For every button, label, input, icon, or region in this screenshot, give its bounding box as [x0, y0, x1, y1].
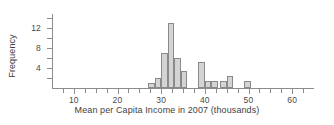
x-tick-minor	[63, 89, 64, 93]
y-axis-line	[52, 14, 53, 89]
y-tick-minor	[47, 38, 52, 39]
x-tick-minor	[227, 89, 228, 93]
x-tick-major	[292, 89, 293, 94]
y-tick-major	[47, 28, 52, 29]
x-tick-minor	[281, 89, 282, 93]
x-tick-minor	[139, 89, 140, 93]
x-tick-label: 50	[244, 95, 254, 105]
x-tick-minor	[172, 89, 173, 93]
x-tick-minor	[150, 89, 151, 93]
x-tick-minor	[303, 89, 304, 93]
x-tick-minor	[259, 89, 260, 93]
histogram-bar	[211, 81, 218, 89]
x-tick-major	[249, 89, 250, 94]
x-tick-minor	[194, 89, 195, 93]
x-tick-major	[74, 89, 75, 94]
x-tick-label: 60	[287, 95, 297, 105]
x-tick-label: 30	[156, 95, 166, 105]
y-tick-major	[47, 48, 52, 49]
x-tick-minor	[216, 89, 217, 93]
x-tick-minor	[107, 89, 108, 93]
x-tick-minor	[96, 89, 97, 93]
x-axis-title: Mean per Capita Income in 2007 (thousand…	[0, 105, 334, 115]
y-tick-minor	[47, 18, 52, 19]
x-tick-minor	[238, 89, 239, 93]
x-tick-major	[161, 89, 162, 94]
x-tick-label: 40	[200, 95, 210, 105]
y-tick-minor	[47, 58, 52, 59]
x-tick-label: 10	[69, 95, 79, 105]
histogram-bar	[227, 76, 234, 89]
y-tick-major	[47, 68, 52, 69]
histogram-bar	[181, 71, 188, 89]
y-tick-label: 8	[36, 43, 41, 53]
x-tick-minor	[128, 89, 129, 93]
x-tick-label: 20	[113, 95, 123, 105]
plot-area	[52, 14, 314, 88]
histogram-bar	[244, 81, 251, 89]
histogram-figure: Mean per Capita Income in 2007 (thousand…	[0, 0, 334, 125]
y-axis-title: Frequency	[7, 16, 17, 96]
x-tick-minor	[270, 89, 271, 93]
y-tick-minor	[47, 78, 52, 79]
histogram-bar	[168, 23, 175, 88]
x-tick-major	[118, 89, 119, 94]
x-tick-minor	[85, 89, 86, 93]
y-tick-label: 12	[31, 23, 41, 33]
y-tick-label: 4	[36, 63, 41, 73]
x-tick-major	[205, 89, 206, 94]
x-tick-minor	[183, 89, 184, 93]
